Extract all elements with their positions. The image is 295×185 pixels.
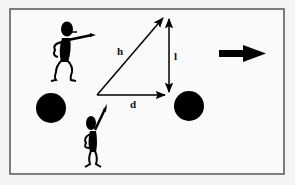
right-ball [174,91,204,121]
label-hypotenuse: h [117,45,123,57]
left-ball [36,93,66,123]
figure-head [61,22,73,37]
label-distance: d [130,98,136,110]
label-height: l [174,50,177,62]
diagram-frame [10,9,284,174]
figure-head [86,116,96,130]
diagram-canvas: h l d [0,0,295,185]
